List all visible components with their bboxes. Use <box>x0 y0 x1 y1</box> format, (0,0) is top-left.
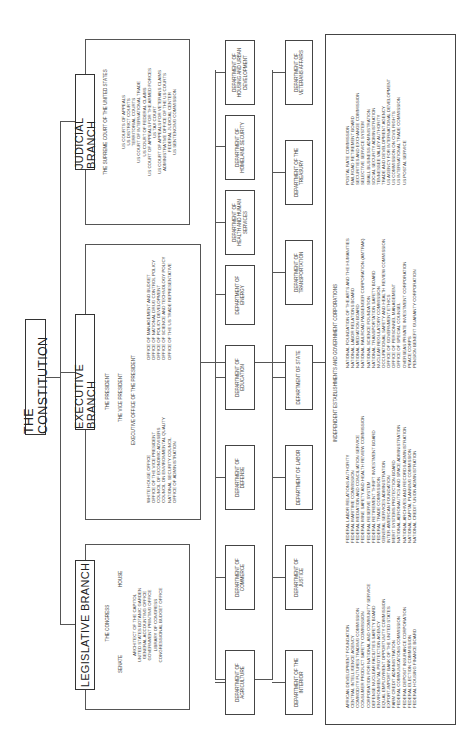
eop-office: OFFICE OF THE US TRADE REPRESENTATIVE <box>167 256 172 360</box>
agency: CORPORATION FOR NATIONAL AND COMMUNITY S… <box>366 584 371 708</box>
executive-label: EXECUTIVE BRANCH <box>73 315 97 429</box>
connector-legislative <box>60 624 75 625</box>
dept-row2-trunk <box>272 70 273 680</box>
dept-labor: DEPARTMENT OF LABOR <box>285 445 313 510</box>
legislative-office: CONGRESSIONAL BUDGET OFFICE <box>158 570 163 680</box>
eop-office: OFFICE OF ADMINISTRATION <box>172 417 177 503</box>
legislative-congress: THE CONGRESS <box>105 573 110 673</box>
legislative-label: LEGISLATIVE BRANCH <box>79 563 91 687</box>
executive-offices-left: WHITE HOUSE OFFICE OFFICE OF THE VICE PR… <box>146 417 177 503</box>
dept-stub <box>272 72 285 73</box>
executive-offices-right: OFFICE OF MANAGEMENT AND BUDGET OFFICE O… <box>146 256 172 360</box>
agency: NATIONAL RAILROAD PASSENGER CORPORATION … <box>360 238 365 368</box>
dept-state: DEPARTMENT OF STATE <box>285 345 313 410</box>
dept-stub <box>272 272 285 273</box>
eop-office: OFFICE OF SCIENCE AND TECHNOLOGY POLICY <box>161 256 166 360</box>
dept-stub <box>272 682 285 683</box>
dept-education: DEPARTMENT OF EDUCATION <box>225 345 255 410</box>
dept-stub <box>272 377 285 378</box>
court: US SENTENCING COMMISSION <box>172 52 177 192</box>
dept-housing-urban-development: DEPARTMENT OF HOUSING AND URBAN DEVELOPM… <box>225 40 255 105</box>
executive-eop: EXECUTIVE OFFICE OF THE PRESIDENT <box>131 355 136 445</box>
dept-commerce: DEPARTMENT OF COMMERCE <box>225 545 255 610</box>
dept-stub <box>215 222 225 223</box>
dept-stub <box>272 477 285 478</box>
constitution-label: THE CONSTITUTION <box>22 320 50 434</box>
executive-vice-president: THE VICE PRESIDENT <box>118 373 123 422</box>
dept-health-human-services: DEPARTMENT OF HEALTH AND HUMAN SERVICES <box>225 190 255 255</box>
judicial-label: JUDICIAL BRANCH <box>73 75 97 169</box>
judicial-courts: US COURTS OF APPEALS US DISTRICT COURTS … <box>121 52 178 192</box>
judicial-supreme-court: THE SUPREME COURT OF THE UNITED STATES <box>103 62 108 182</box>
independent-col1: AFRICAN DEVELOPMENT FOUNDATION CENTRAL I… <box>345 584 417 708</box>
org-chart: THE CONSTITUTION LEGISLATIVE BRANCH THE … <box>0 0 474 753</box>
dept-stub <box>215 682 225 683</box>
legislative-branch-box: LEGISLATIVE BRANCH <box>75 560 95 690</box>
independent-col3: NATIONAL FOUNDATION OF THE ARTS AND THE … <box>345 238 417 368</box>
dept-stub <box>272 577 285 578</box>
dept-treasury: DEPARTMENT OF THE TREASURY <box>285 140 313 205</box>
dept-energy: DEPARTMENT OF ENERGY <box>225 265 255 325</box>
executive-content <box>85 244 201 520</box>
dept-agriculture: DEPARTMENT OF AGRICULTURE <box>225 650 255 715</box>
legislative-house: HOUSE <box>118 571 123 587</box>
dept-justice: DEPARTMENT OF JUSTICE <box>285 545 313 610</box>
connector-branches-bar <box>60 122 61 625</box>
agency: NATIONAL ARCHIVES AND RECORDS ADMINISTRA… <box>402 415 407 543</box>
agency: PENSION BENEFIT GUARANTY CORPORATION <box>412 238 417 368</box>
dept-stub <box>215 146 225 147</box>
dept-stub <box>272 172 285 173</box>
legislative-senate: SENATE <box>118 655 123 673</box>
independent-col4: POSTAL RATE COMMISSION RAILROAD RETIREME… <box>345 79 407 185</box>
dept-interior: DEPARTMENT OF THE INTERIOR <box>285 650 313 715</box>
legislative-offices: ARCHITECT OF THE CAPITOL UNITED STATES B… <box>132 570 163 680</box>
independent-title: INDEPENDENT ESTABLISHMENTS AND GOVERNMEN… <box>333 263 338 463</box>
eop-office: COUNCIL ON ENVIRONMENTAL QUALITY <box>161 417 166 503</box>
independent-col2: FEDERAL LABOR RELATIONS AUTHORITY FEDERA… <box>345 415 417 543</box>
dept-stub <box>215 72 225 73</box>
dept-veterans-affairs: DEPARTMENT OF VETERANS AFFAIRS <box>285 40 313 105</box>
executive-president: THE PRESIDENT <box>105 373 110 410</box>
dept-stub <box>215 377 225 378</box>
agency: FEDERAL MINE SAFETY AND HEALTH REVIEW CO… <box>360 415 365 543</box>
dept-row1-trunk <box>215 70 216 680</box>
agency: US POSTAL SERVICE <box>402 79 407 185</box>
dept-stub <box>215 294 225 295</box>
judicial-branch-box: JUDICIAL BRANCH <box>75 74 95 170</box>
constitution-box: THE CONSTITUTION <box>25 319 46 435</box>
connector-independent <box>313 362 325 363</box>
dept-defense: DEPARTMENT OF DEFENSE <box>225 445 255 510</box>
agency: NATIONAL CREDIT UNION ADMINISTRATION <box>412 415 417 543</box>
dept-homeland-security: DEPARTMENT OF HOMELAND SECURITY <box>225 115 255 180</box>
dept-transportation: DEPARTMENT OF TRANSPORTATION <box>285 240 313 305</box>
executive-branch-box: EXECUTIVE BRANCH <box>75 314 95 430</box>
dept-stub <box>215 477 225 478</box>
dept-stub <box>215 577 225 578</box>
agency: FEDERAL HOUSING FINANCE BOARD <box>412 584 417 708</box>
agency: NATIONAL AERONAUTICS AND SPACE ADMINISTR… <box>396 415 401 543</box>
